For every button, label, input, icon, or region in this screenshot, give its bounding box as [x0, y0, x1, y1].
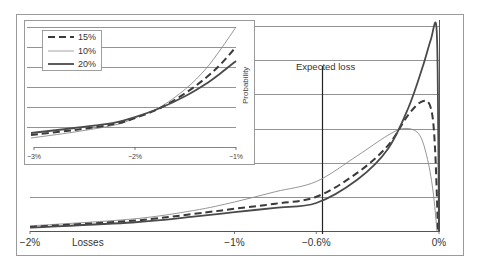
probability-label: Probability: [241, 67, 250, 104]
x-tick-label: −3%: [27, 153, 41, 160]
x-tick-label: 0%: [432, 237, 447, 248]
inset-chart: −3%−2%−1% Probability 15% 10% 20%: [25, 21, 255, 165]
legend-label-20: 20%: [78, 59, 96, 69]
x-tick-label: −2%: [20, 237, 40, 248]
x-axis-title-losses: Losses: [72, 237, 104, 248]
x-tick-label: −1%: [224, 237, 244, 248]
legend: 15% 10% 20%: [43, 31, 102, 71]
legend-label-15: 15%: [78, 32, 96, 42]
x-tick-label: −0.6%: [302, 237, 331, 248]
x-tick-label: −1%: [229, 153, 243, 160]
expected-loss-label: Expected loss: [296, 61, 355, 72]
chart-figure: −2%−1%−0.6%0% Expected loss Losses −3%−2…: [0, 0, 478, 268]
legend-label-10: 10%: [78, 46, 96, 56]
x-tick-label: −2%: [128, 153, 142, 160]
